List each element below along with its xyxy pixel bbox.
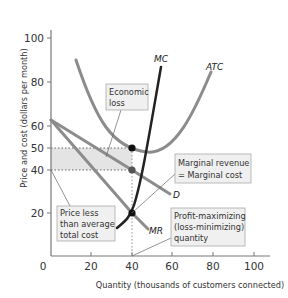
y-tick-80: 80 — [31, 76, 44, 88]
y-tick-50: 50 — [31, 142, 44, 154]
price-less-leader — [51, 170, 70, 206]
mr-equals-mc-annotation: Marginal revenue = Marginal cost — [175, 154, 251, 183]
y-tick-20: 20 — [31, 207, 44, 219]
y-tick-40: 40 — [31, 164, 44, 176]
economic-loss-line2: loss — [109, 98, 125, 108]
price-less-annotation: Price less than average total cost — [57, 206, 115, 241]
economic-loss-line1: Economic — [109, 87, 149, 97]
chart-canvas: 100 80 60 50 40 20 0 20 40 60 80 100 Qua… — [0, 0, 288, 298]
x-tick-80: 80 — [206, 260, 219, 272]
y-tick-100: 100 — [24, 32, 44, 44]
x-axis-title: Quantity (thousands of customers connect… — [96, 280, 284, 290]
profit-max-annotation: Profit-maximizing (loss-minimizing) quan… — [171, 208, 246, 246]
profit-max-line2: (loss-minimizing) — [174, 222, 244, 232]
mr-mc-line2: = Marginal cost — [178, 170, 243, 180]
mc-label: MC — [154, 54, 169, 64]
economic-loss-annotation: Economic loss — [106, 84, 149, 110]
price-less-line2: than average — [60, 219, 115, 229]
atc-label: ATC — [205, 62, 224, 72]
price-less-line3: total cost — [60, 230, 99, 240]
mr-mc-line1: Marginal revenue — [178, 158, 249, 168]
y-axis-title: Price and cost (dollars per month) — [19, 48, 29, 187]
price-less-line1: Price less — [60, 208, 98, 218]
atc-point-dot — [128, 144, 135, 151]
price-point-dot — [128, 166, 135, 173]
x-tick-60: 60 — [165, 260, 178, 272]
mr-label: MR — [149, 226, 163, 236]
profit-max-leader — [132, 238, 171, 256]
x-tick-0: 0 — [40, 260, 47, 272]
d-label: D — [173, 190, 180, 200]
x-tick-40: 40 — [125, 260, 138, 272]
x-tick-100: 100 — [244, 260, 264, 272]
profit-max-line3: quantity — [174, 233, 208, 243]
y-tick-60: 60 — [31, 120, 44, 132]
profit-max-line1: Profit-maximizing — [174, 211, 246, 221]
x-tick-20: 20 — [84, 260, 97, 272]
